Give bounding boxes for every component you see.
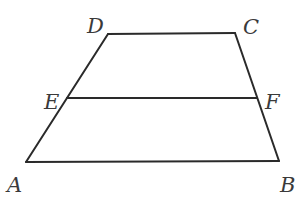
segment-ab bbox=[26, 161, 279, 162]
label-c: C bbox=[243, 15, 259, 39]
trapezoid-diagram: D C E F A B bbox=[0, 0, 308, 200]
label-e: E bbox=[43, 90, 59, 114]
label-b: B bbox=[279, 173, 295, 197]
label-a: A bbox=[5, 173, 22, 197]
label-d: D bbox=[86, 14, 104, 38]
label-f: F bbox=[264, 90, 281, 114]
segment-cd bbox=[108, 33, 235, 34]
